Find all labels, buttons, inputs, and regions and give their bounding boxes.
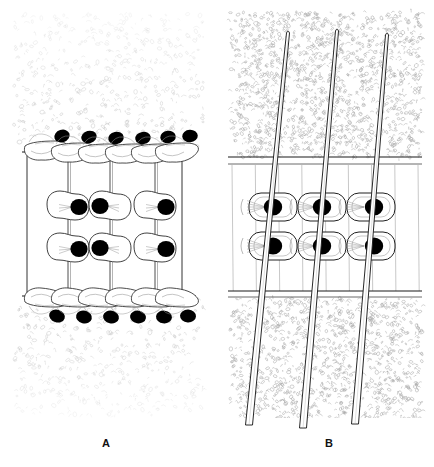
nucleus [157, 241, 174, 257]
nucleus [91, 240, 108, 256]
panel-a-label: A [102, 437, 110, 449]
nucleus [70, 199, 87, 215]
panel-b-label: B [325, 437, 333, 449]
figure-container: A B [0, 0, 434, 467]
nucleus [91, 198, 108, 214]
nucleus [157, 199, 174, 215]
nucleus [70, 241, 87, 257]
illustration-canvas [0, 0, 434, 467]
